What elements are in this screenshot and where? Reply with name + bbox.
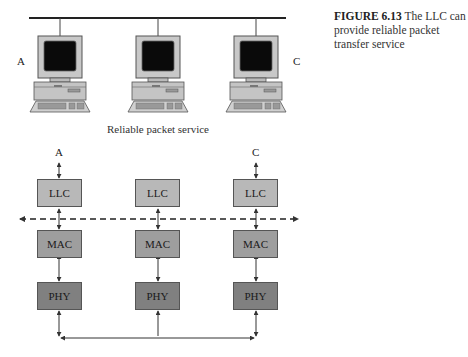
phy-box-a: PHY	[37, 282, 82, 310]
figure-caption: FIGURE 6.13 The LLC can provide reliable…	[334, 9, 468, 51]
llc-box-b: LLC	[135, 179, 180, 207]
mac-box-c: MAC	[233, 230, 278, 258]
phy-box-b: PHY	[135, 282, 180, 310]
computer-b-icon	[128, 36, 188, 112]
computer-c-icon	[226, 36, 286, 112]
endpoint-label-a: A	[55, 146, 63, 158]
endpoint-label-c: C	[252, 146, 259, 158]
llc-box-c: LLC	[233, 179, 278, 207]
mac-box-b: MAC	[135, 230, 180, 258]
figure-label: FIGURE 6.13	[334, 10, 402, 22]
computer-a-icon	[30, 36, 90, 112]
mac-box-a: MAC	[37, 230, 82, 258]
phy-box-c: PHY	[233, 282, 278, 310]
node-label-a: A	[17, 55, 25, 67]
node-label-c: C	[293, 55, 300, 67]
service-label: Reliable packet service	[0, 123, 316, 135]
llc-box-a: LLC	[37, 179, 82, 207]
